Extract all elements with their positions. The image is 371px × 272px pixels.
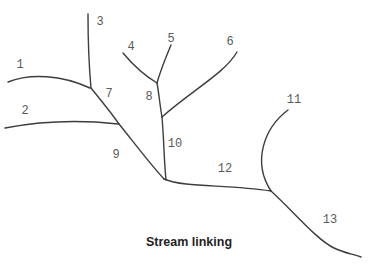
- stream-label-5: 5: [167, 32, 174, 46]
- stream-label-13: 13: [323, 213, 337, 227]
- stream-segment-2: [5, 122, 118, 128]
- stream-segment-6: [162, 52, 237, 117]
- stream-network-svg: 1 2 3 4 5 6 7 8 9 10 11 12 13 Stream lin…: [0, 0, 371, 272]
- stream-label-4: 4: [127, 40, 134, 54]
- stream-label-3: 3: [96, 15, 103, 29]
- stream-segment-8: [157, 83, 162, 117]
- stream-label-10: 10: [168, 137, 182, 151]
- stream-segment-5: [157, 45, 171, 83]
- stream-lines: [5, 14, 361, 257]
- stream-label-6: 6: [226, 35, 233, 49]
- stream-segment-4: [123, 53, 157, 83]
- stream-label-9: 9: [112, 148, 119, 162]
- stream-linking-figure: 1 2 3 4 5 6 7 8 9 10 11 12 13 Stream lin…: [0, 0, 371, 272]
- stream-segment-13: [271, 191, 361, 257]
- stream-segment-1: [8, 76, 90, 88]
- stream-segment-3: [88, 14, 91, 88]
- stream-label-12: 12: [218, 162, 232, 176]
- figure-caption: Stream linking: [146, 235, 232, 249]
- stream-segment-12: [164, 179, 271, 191]
- stream-label-8: 8: [145, 90, 152, 104]
- stream-label-7: 7: [105, 87, 112, 101]
- stream-segment-9: [119, 124, 164, 179]
- stream-segment-10: [162, 117, 166, 180]
- stream-label-1: 1: [16, 58, 23, 72]
- stream-segment-11: [262, 110, 288, 191]
- stream-label-2: 2: [21, 104, 28, 118]
- stream-label-11: 11: [287, 93, 301, 107]
